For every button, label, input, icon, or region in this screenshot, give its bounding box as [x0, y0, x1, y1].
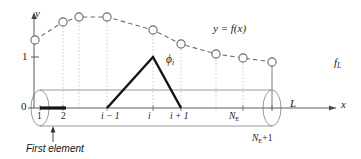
finite-element-diagram: y x 1 0 y = f(x) ϕi fL L 1 2 i − 1 i i +… — [0, 0, 361, 159]
nodal-marker-fL — [268, 58, 276, 66]
nodal-marker — [177, 40, 185, 48]
diagram-canvas — [0, 0, 361, 159]
nodal-marker — [149, 26, 157, 34]
node-label-NE: NE — [229, 112, 239, 122]
node-label-2: 2 — [61, 112, 66, 122]
leader-arrowhead — [51, 126, 56, 133]
nodal-marker — [75, 13, 83, 21]
x-axis-arrowhead — [329, 105, 336, 110]
x-axis-label: x — [341, 99, 346, 110]
NEp1-tail: +1 — [262, 133, 272, 143]
end-value-label: fL — [334, 57, 341, 70]
nodal-marker — [103, 13, 111, 21]
nodal-marker — [59, 18, 67, 26]
node-label-i-plus-1: i + 1 — [170, 112, 189, 122]
nodal-marker — [212, 50, 220, 58]
nodal-marker — [31, 36, 39, 44]
nodal-marker — [239, 54, 247, 62]
NE-subscript: E — [235, 115, 239, 122]
origin-label: 0 — [21, 101, 27, 112]
y-tick-label-one: 1 — [22, 51, 28, 62]
rod-length-label: L — [290, 98, 296, 109]
phi-subscript: i — [172, 58, 174, 67]
basis-function-label: ϕi — [166, 54, 174, 67]
f-subscript: L — [337, 61, 341, 70]
node-label-NE-plus-1: NE+1 — [252, 134, 272, 144]
node-label-i-minus-1: i − 1 — [101, 112, 120, 122]
function-label: y = f(x) — [213, 23, 246, 34]
node-label-1: 1 — [37, 112, 42, 122]
node-label-i: i — [148, 112, 151, 122]
first-element-note: First element — [26, 144, 84, 154]
y-axis-label: y — [35, 8, 40, 19]
